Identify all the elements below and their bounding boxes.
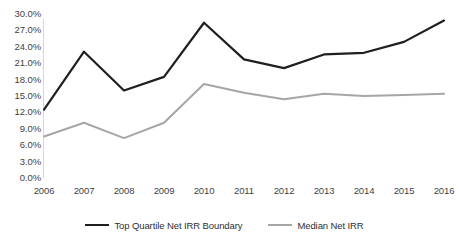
legend-entry-top-quartile: Top Quartile Net IRR Boundary: [85, 220, 242, 231]
legend-entry-median: Median Net IRR: [268, 220, 363, 231]
legend-label-median: Median Net IRR: [297, 220, 363, 231]
chart-legend: Top Quartile Net IRR Boundary Median Net…: [0, 216, 449, 234]
plot-area: [44, 14, 444, 178]
x-axis-tick-label: 2014: [344, 185, 384, 196]
y-axis-tick-label: 18.0%: [0, 75, 41, 85]
legend-swatch-icon: [85, 224, 109, 226]
x-axis-tick-label: 2012: [264, 185, 304, 196]
x-axis: 2006200720082009201020112012201320142015…: [44, 185, 444, 199]
y-axis-tick-label: 27.0%: [0, 25, 41, 35]
x-axis-tick-label: 2010: [184, 185, 224, 196]
legend-swatch-icon: [268, 224, 292, 226]
y-axis-tick-label: 24.0%: [0, 42, 41, 52]
x-axis-tick-label: 2015: [384, 185, 424, 196]
y-axis-tick-label: 0.0%: [0, 173, 41, 183]
x-axis-tick-label: 2008: [104, 185, 144, 196]
x-axis-tick-label: 2013: [304, 185, 344, 196]
y-axis-tick-label: 21.0%: [0, 58, 41, 68]
y-axis-tick-label: 12.0%: [0, 107, 41, 117]
x-axis-tick-label: 2006: [24, 185, 64, 196]
x-axis-tick-label: 2007: [64, 185, 104, 196]
series-line-median-net-irr: [44, 84, 444, 138]
y-axis-tick-label: 30.0%: [0, 9, 41, 19]
x-axis-tick-label: 2016: [424, 185, 459, 196]
x-axis-tick-label: 2011: [224, 185, 264, 196]
y-axis-tick-label: 6.0%: [0, 140, 41, 150]
legend-label-top-quartile: Top Quartile Net IRR Boundary: [114, 220, 242, 231]
plot-svg: [44, 14, 444, 178]
y-axis: 30.0%27.0%24.0%21.0%18.0%15.0%12.0%9.0%6…: [0, 14, 41, 178]
y-axis-tick-label: 15.0%: [0, 91, 41, 101]
y-axis-tick-label: 3.0%: [0, 157, 41, 167]
y-axis-tick-label: 9.0%: [0, 124, 41, 134]
x-axis-tick-label: 2009: [144, 185, 184, 196]
